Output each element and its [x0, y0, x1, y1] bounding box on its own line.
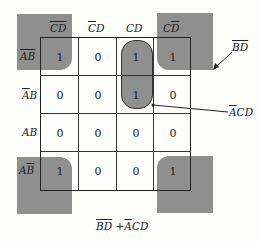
- group-label-bbar-dbar: BD: [232, 41, 248, 53]
- annotation-arrows: [0, 0, 259, 241]
- simplified-expression: BD +ACD: [96, 220, 148, 232]
- group-label-abar-cd: ACD: [229, 106, 253, 118]
